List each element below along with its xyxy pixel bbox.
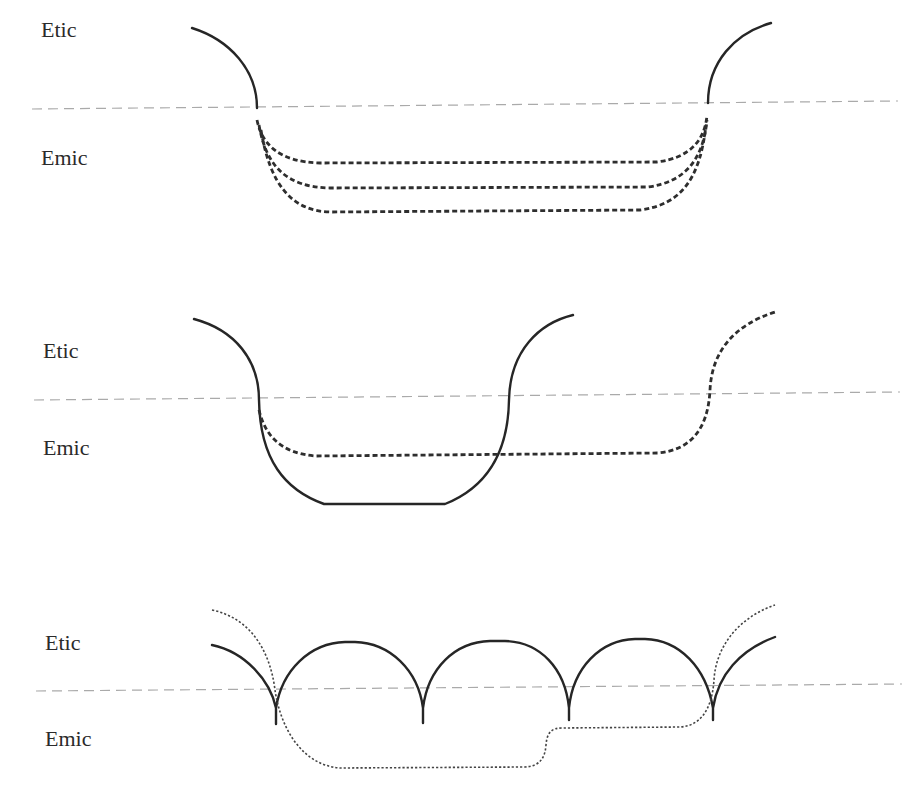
etic-emic-boundary: [32, 101, 898, 109]
emic-path-1: [257, 115, 707, 163]
panel-1-diagram: [0, 0, 922, 260]
dotted-path: [212, 605, 775, 768]
left-etic-arc: [192, 28, 257, 108]
panel-3: Etic Emic: [0, 580, 922, 796]
etic-emic-boundary: [34, 392, 900, 400]
panel-2-diagram: [0, 290, 922, 530]
solid-path: [194, 315, 573, 504]
right-etic-arc: [708, 23, 771, 103]
panel-2: Etic Emic: [0, 290, 922, 530]
etic-emic-boundary: [36, 684, 902, 691]
emic-path-3: [261, 125, 706, 212]
dashed-path: [259, 312, 775, 456]
solid-arches: [212, 637, 775, 724]
panel-1: Etic Emic: [0, 0, 922, 260]
emic-path-2: [259, 120, 707, 188]
panel-3-diagram: [0, 580, 922, 796]
